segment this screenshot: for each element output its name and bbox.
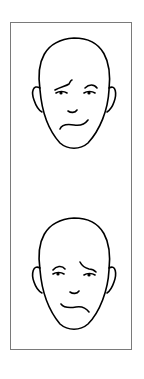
right-brow	[80, 262, 96, 272]
right-brow	[85, 85, 97, 88]
face-1-drawing	[0, 0, 144, 190]
nose	[68, 110, 77, 112]
head-outline	[39, 38, 110, 148]
head-outline	[39, 218, 110, 329]
mouth	[61, 304, 89, 312]
nose	[70, 291, 79, 293]
left-brow	[55, 80, 72, 90]
left-brow	[53, 266, 65, 270]
mouth	[60, 120, 88, 129]
face-2-drawing	[0, 190, 144, 379]
